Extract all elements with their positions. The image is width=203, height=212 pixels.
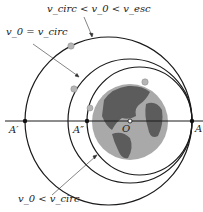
point-A-prime <box>23 119 27 123</box>
label-subcircular-velocity: v_0 < v_circ <box>18 194 80 204</box>
label-escape-range: v_circ < v_0 < v_esc <box>47 4 151 14</box>
point-A-double-prime <box>85 119 89 123</box>
point-A <box>190 119 194 123</box>
orbit-diagram: v_circ < v_0 < v_esc v_0 = v_circ v_0 < … <box>0 0 203 212</box>
label-O: O <box>122 124 130 134</box>
label-A-double-prime: A″ <box>73 125 84 135</box>
leader-lines <box>33 17 97 195</box>
label-circular-velocity: v_0 = v_circ <box>6 27 68 37</box>
label-A-prime: A′ <box>9 125 19 135</box>
label-A: A <box>195 124 202 134</box>
